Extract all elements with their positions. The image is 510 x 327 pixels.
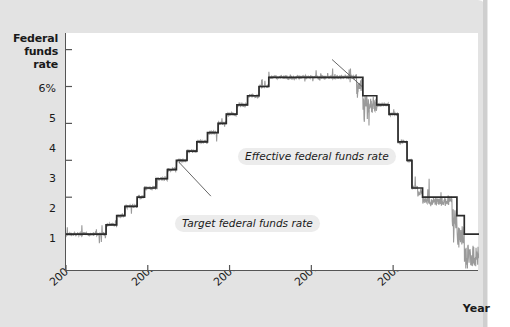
y-axis-title-line-2: funds bbox=[2, 45, 58, 58]
leader-line-target bbox=[179, 162, 211, 196]
y-tick-label-4: 4 bbox=[22, 143, 56, 154]
y-tick-label-6: 6% bbox=[22, 83, 56, 94]
y-tick-label-1: 1 bbox=[22, 233, 56, 244]
y-axis-title-line-1: Federal bbox=[2, 32, 58, 45]
callout-effective-federal-funds-rate: Effective federal funds rate bbox=[238, 148, 396, 165]
y-tick-label-2: 2 bbox=[22, 203, 56, 214]
callout-target-federal-funds-rate: Target federal funds rate bbox=[175, 215, 320, 232]
figure-screenshot: Federal funds rate 6% 5 4 3 2 1 2004 200… bbox=[0, 0, 510, 327]
y-tick-label-5: 5 bbox=[22, 113, 56, 124]
y-tick-label-3: 3 bbox=[22, 173, 56, 184]
series-effective-federal-funds-rate bbox=[66, 68, 479, 268]
y-axis-title-line-3: rate bbox=[2, 58, 58, 71]
y-axis-title: Federal funds rate bbox=[2, 32, 58, 71]
page-gutter bbox=[487, 0, 510, 327]
leader-line-effective bbox=[332, 60, 362, 87]
x-axis-title: Year bbox=[463, 302, 490, 315]
